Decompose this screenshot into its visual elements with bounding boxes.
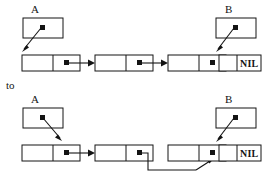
list-node-3-bottom [168, 145, 226, 161]
linked-list-diagram [0, 0, 263, 173]
variable-label-a-bottom: A [31, 94, 39, 105]
node-3-next-dot [210, 150, 215, 155]
variable-label-a-top: A [31, 4, 39, 15]
node-3-next-dot [210, 60, 215, 65]
variable-label-b-top: B [225, 4, 232, 15]
pointer-dot-b [233, 25, 238, 30]
pointer-dot-a [40, 25, 45, 30]
pointer-dot-b [233, 115, 238, 120]
node-3-box [168, 145, 226, 161]
variable-label-b-bottom: B [225, 94, 232, 105]
list-node-3-top [168, 55, 226, 71]
nil-label-bottom: NIL [240, 148, 258, 159]
transition-label-to: to [6, 80, 15, 91]
nil-label-top: NIL [240, 58, 258, 69]
node-3-box [168, 55, 226, 71]
